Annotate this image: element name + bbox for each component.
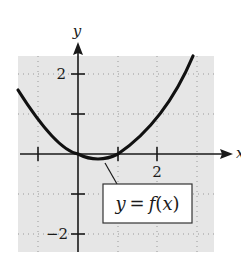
x-axis-label: x bbox=[236, 144, 241, 162]
x-tick-label-2: 2 bbox=[152, 163, 162, 181]
y-tick-label-2: 2 bbox=[56, 65, 66, 83]
y-axis-label: y bbox=[72, 22, 82, 40]
y-tick-label-neg2: −2 bbox=[46, 225, 68, 243]
function-graph: 2 2 −2 x y y=f(x) bbox=[0, 0, 241, 270]
